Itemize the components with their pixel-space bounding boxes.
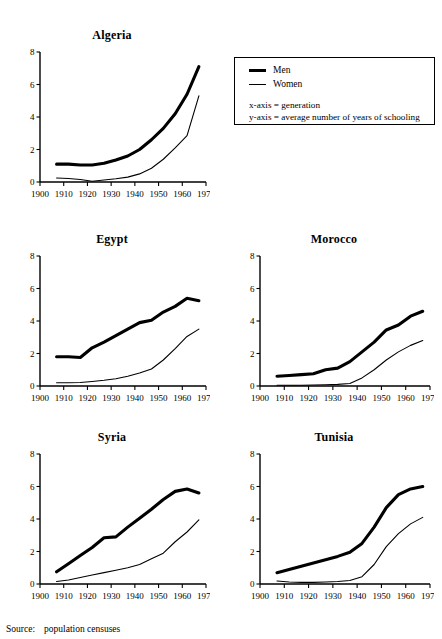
series-line-men (57, 67, 199, 165)
y-tick-label: 2 (250, 547, 255, 557)
x-tick-label: 1920 (300, 591, 319, 601)
y-tick-label: 2 (30, 145, 35, 155)
plot-area-morocco: 0246819001910192019301940195019601970 (234, 250, 434, 412)
legend-label-women: Women (273, 79, 302, 89)
plot-area-syria: 0246819001910192019301940195019601970 (14, 448, 210, 610)
x-tick-label: 1950 (150, 591, 169, 601)
y-tick-label: 8 (30, 251, 35, 261)
y-tick-label: 2 (250, 349, 255, 359)
y-tick-label: 0 (30, 579, 35, 589)
x-tick-label: 1970 (197, 393, 210, 403)
source-line: Source:population censuses (6, 624, 120, 634)
y-tick-label: 0 (30, 381, 35, 391)
x-tick-label: 1940 (348, 393, 367, 403)
y-tick-label: 6 (30, 284, 35, 294)
source-label: Source: (6, 624, 35, 634)
series-line-men (277, 311, 423, 376)
legend-entry-women: Women (249, 79, 302, 89)
chart-title-tunisia: Tunisia (234, 430, 434, 445)
plot-area-tunisia: 0246819001910192019301940195019601970 (234, 448, 434, 610)
y-tick-label: 8 (250, 449, 255, 459)
x-tick-label: 1930 (102, 591, 121, 601)
y-tick-label: 4 (30, 112, 35, 122)
legend-note-yaxis: y-axis = average number of years of scho… (249, 112, 420, 122)
y-tick-label: 8 (30, 449, 35, 459)
x-tick-label: 1940 (126, 189, 145, 199)
x-tick-label: 1920 (78, 591, 97, 601)
x-tick-label: 1940 (348, 591, 367, 601)
chart-title-morocco: Morocco (234, 232, 434, 247)
x-tick-label: 1910 (275, 591, 294, 601)
legend-swatch-men (249, 69, 266, 72)
x-tick-label: 1950 (372, 393, 391, 403)
series-line-men (277, 487, 423, 573)
chart-legend: Men Women x-axis = generation y-axis = a… (234, 57, 435, 125)
x-tick-label: 1910 (55, 591, 74, 601)
y-tick-label: 6 (30, 80, 35, 90)
x-tick-label: 1930 (102, 393, 121, 403)
x-tick-label: 1960 (397, 591, 416, 601)
x-tick-label: 1920 (78, 189, 97, 199)
x-tick-label: 1950 (372, 591, 391, 601)
y-tick-label: 2 (30, 547, 35, 557)
chart-title-syria: Syria (14, 430, 210, 445)
x-tick-label: 1900 (251, 591, 270, 601)
x-tick-label: 1930 (102, 189, 121, 199)
legend-note-xaxis: x-axis = generation (249, 100, 320, 110)
x-tick-label: 1910 (55, 189, 74, 199)
x-tick-label: 1960 (173, 591, 192, 601)
x-tick-label: 1900 (251, 393, 270, 403)
legend-swatch-women (249, 84, 266, 85)
x-tick-label: 1950 (150, 393, 169, 403)
x-tick-label: 1960 (397, 393, 416, 403)
y-tick-label: 4 (30, 316, 35, 326)
x-tick-label: 1970 (197, 591, 210, 601)
y-tick-label: 0 (250, 579, 255, 589)
legend-label-men: Men (273, 65, 290, 75)
series-line-men (57, 298, 199, 357)
x-tick-label: 1920 (300, 393, 319, 403)
y-tick-label: 6 (30, 482, 35, 492)
chart-title-egypt: Egypt (14, 232, 210, 247)
x-tick-label: 1920 (78, 393, 97, 403)
legend-entry-men: Men (249, 65, 290, 75)
chart-panel-tunisia: Tunisia 02468190019101920193019401950196… (234, 430, 434, 610)
y-tick-label: 4 (30, 514, 35, 524)
x-tick-label: 1930 (324, 393, 343, 403)
x-tick-label: 1900 (31, 393, 50, 403)
x-tick-label: 1940 (126, 591, 145, 601)
chart-panel-morocco: Morocco 02468190019101920193019401950196… (234, 232, 434, 412)
x-tick-label: 1910 (55, 393, 74, 403)
series-line-women (277, 517, 423, 582)
y-tick-label: 6 (250, 284, 255, 294)
y-tick-label: 0 (30, 177, 35, 187)
x-tick-label: 1940 (126, 393, 145, 403)
chart-title-algeria: Algeria (14, 28, 210, 43)
running-header (210, 0, 442, 4)
x-tick-label: 1900 (31, 591, 50, 601)
chart-panel-egypt: Egypt 0246819001910192019301940195019601… (14, 232, 210, 412)
x-tick-label: 1900 (31, 189, 50, 199)
x-tick-label: 1970 (421, 393, 434, 403)
x-tick-label: 1960 (173, 393, 192, 403)
source-text: population censuses (44, 624, 120, 634)
x-tick-label: 1910 (275, 393, 294, 403)
x-tick-label: 1950 (150, 189, 169, 199)
figure-page: Algeria 02468190019101920193019401950196… (0, 0, 442, 639)
plot-area-algeria: 0246819001910192019301940195019601970 (14, 46, 210, 208)
plot-area-egypt: 0246819001910192019301940195019601970 (14, 250, 210, 412)
y-tick-label: 2 (30, 349, 35, 359)
y-tick-label: 4 (250, 316, 255, 326)
series-line-men (57, 489, 199, 572)
y-tick-label: 8 (30, 47, 35, 57)
y-tick-label: 4 (250, 514, 255, 524)
y-tick-label: 0 (250, 381, 255, 391)
x-tick-label: 1970 (197, 189, 210, 199)
x-tick-label: 1970 (421, 591, 434, 601)
chart-panel-algeria: Algeria 02468190019101920193019401950196… (14, 28, 210, 208)
x-tick-label: 1930 (324, 591, 343, 601)
y-tick-label: 8 (250, 251, 255, 261)
y-tick-label: 6 (250, 482, 255, 492)
x-tick-label: 1960 (173, 189, 192, 199)
chart-panel-syria: Syria 0246819001910192019301940195019601… (14, 430, 210, 610)
